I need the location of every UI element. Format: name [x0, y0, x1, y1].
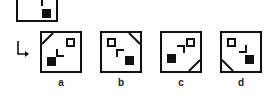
sample-corner-mark	[35, 0, 43, 6]
filled-square	[47, 57, 56, 66]
filled-square	[245, 55, 254, 64]
option-label-a: a	[40, 77, 82, 89]
sample-filled-square	[42, 9, 51, 18]
center-corner-mark	[116, 49, 124, 57]
option-label-d: d	[220, 77, 262, 89]
outlined-square	[66, 38, 75, 47]
option-label-c: c	[160, 77, 202, 89]
option-a[interactable]	[40, 31, 82, 73]
option-label-b: b	[100, 77, 142, 89]
option-c[interactable]	[160, 31, 202, 73]
filled-square	[167, 54, 176, 63]
outlined-square	[227, 38, 236, 47]
center-corner-mark	[56, 49, 64, 57]
outlined-square	[107, 38, 116, 47]
sample-figure	[16, 0, 58, 22]
center-corner-mark	[239, 45, 247, 53]
center-corner-mark	[177, 45, 185, 53]
down-right-arrow-icon	[15, 40, 31, 60]
option-d[interactable]	[220, 31, 262, 73]
outlined-square	[186, 38, 195, 47]
option-b[interactable]	[100, 31, 142, 73]
filled-square	[125, 56, 134, 65]
